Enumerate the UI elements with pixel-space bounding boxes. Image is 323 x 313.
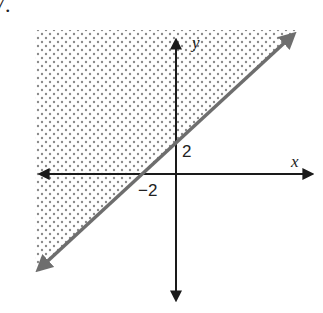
y-intercept-label: 2 — [182, 142, 191, 161]
inequality-graph: y x 2 −2 — [0, 0, 323, 313]
x-axis-label: x — [290, 152, 299, 171]
y-axis-label: y — [190, 33, 200, 52]
x-intercept-label: −2 — [138, 181, 157, 200]
